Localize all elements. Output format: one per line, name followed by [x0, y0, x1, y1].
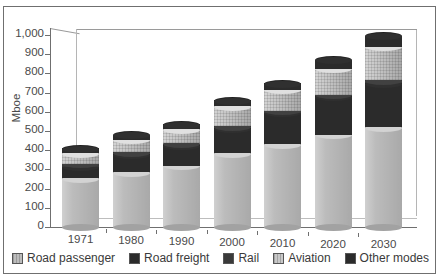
legend-item[interactable]: Road passenger: [12, 251, 115, 265]
bar-segment: [113, 154, 150, 172]
y-tick-label: 1,000: [4, 28, 44, 39]
segment-body: [315, 135, 352, 227]
y-tick: [45, 35, 51, 36]
bar-segment: [365, 80, 402, 83]
x-tick: [207, 230, 208, 234]
bar-column[interactable]: [62, 148, 99, 227]
chart-legend: Road passengerRoad freightRailAviationOt…: [4, 243, 437, 273]
bar-segment: [163, 144, 200, 146]
bar-segment: [113, 152, 150, 154]
bar-segment: [214, 106, 251, 126]
y-tick: [45, 189, 51, 190]
bar-segment: [214, 128, 251, 153]
y-axis-title: Mboe: [10, 78, 22, 138]
segment-body: [264, 144, 301, 227]
bar-segment: [315, 135, 352, 227]
bar-bottom-cap: [214, 224, 251, 231]
y-tick-label: 800: [4, 66, 44, 77]
bar-segment: [62, 178, 99, 227]
segment-body: [315, 96, 352, 134]
bar-column[interactable]: [264, 83, 301, 227]
y-tick: [45, 227, 51, 228]
bar-segment: [365, 47, 402, 81]
x-tick: [106, 229, 107, 233]
bar-column[interactable]: [315, 60, 352, 227]
bar-segment: [365, 36, 402, 47]
bar-segment: [264, 111, 301, 113]
y-tick: [45, 112, 51, 113]
bar-bottom-cap: [365, 224, 402, 231]
bar-segment: [365, 83, 402, 127]
bar-segment: [264, 144, 301, 227]
bar-bottom-cap: [163, 224, 200, 231]
segment-top-cap: [264, 80, 301, 88]
legend-swatch: [129, 253, 140, 264]
legend-item[interactable]: Rail: [223, 251, 259, 265]
segment-body: [365, 83, 402, 127]
bar-segment: [62, 148, 99, 153]
bar-segment: [163, 124, 200, 129]
bar-segment: [163, 145, 200, 165]
bar-segment: [214, 153, 251, 227]
bar-segment: [163, 166, 200, 227]
y-tick: [45, 131, 51, 132]
bar-column[interactable]: [214, 100, 251, 227]
bar-segment: [315, 95, 352, 97]
segment-top-cap: [163, 121, 200, 129]
back-wall: [76, 29, 417, 30]
bar-segment: [264, 83, 301, 90]
bar-segment: [113, 172, 150, 227]
bar-column[interactable]: [113, 135, 150, 227]
legend-label: Rail: [238, 251, 259, 265]
x-tick: [358, 233, 359, 237]
bar-column[interactable]: [163, 124, 200, 227]
y-tick-label: 900: [4, 47, 44, 58]
legend-item[interactable]: Road freight: [129, 251, 209, 265]
y-tick: [45, 208, 51, 209]
y-tick: [45, 73, 51, 74]
segment-body: [264, 113, 301, 145]
x-tick: [156, 230, 157, 234]
legend-swatch: [273, 253, 284, 264]
bar-bottom-cap: [113, 224, 150, 231]
legend-label: Aviation: [288, 251, 330, 265]
bar-bottom-cap: [264, 224, 301, 231]
legend-swatch: [345, 253, 356, 264]
bar-segment: [264, 90, 301, 111]
segment-body: [365, 127, 402, 227]
y-tick-label: 0: [4, 220, 44, 231]
y-tick: [45, 150, 51, 151]
bar-segment: [264, 113, 301, 145]
y-axis-line: [50, 28, 51, 228]
bar-segment: [315, 60, 352, 69]
y-tick: [45, 54, 51, 55]
segment-body: [214, 153, 251, 227]
plot-area: 01002003004005006007008009001,000 Mboe 1…: [4, 7, 437, 239]
y-tick-label: 100: [4, 201, 44, 212]
right-wall: [416, 30, 417, 216]
segment-top-cap: [214, 97, 251, 105]
chart-frame: 01002003004005006007008009001,000 Mboe 1…: [3, 6, 436, 274]
segment-body: [113, 172, 150, 227]
segment-top-cap: [62, 145, 99, 153]
y-tick-label: 200: [4, 182, 44, 193]
bar-segment: [214, 126, 251, 128]
y-tick: [45, 169, 51, 170]
bar-column[interactable]: [365, 36, 402, 227]
bar-segment: [113, 140, 150, 152]
bar-segment: [62, 153, 99, 164]
bar-segment: [163, 129, 200, 143]
legend-item[interactable]: Other modes: [345, 251, 429, 265]
y-tick-label: 400: [4, 143, 44, 154]
bar-segment: [113, 135, 150, 140]
bar-segment: [214, 100, 251, 106]
bar-segment: [62, 167, 99, 179]
legend-label: Other modes: [360, 251, 429, 265]
segment-body: [365, 47, 402, 81]
segment-body: [163, 166, 200, 227]
legend-item[interactable]: Aviation: [273, 251, 330, 265]
bar-bottom-cap: [315, 224, 352, 231]
segment-body: [62, 178, 99, 227]
bar-segment: [315, 69, 352, 95]
bar-bottom-cap: [62, 224, 99, 231]
